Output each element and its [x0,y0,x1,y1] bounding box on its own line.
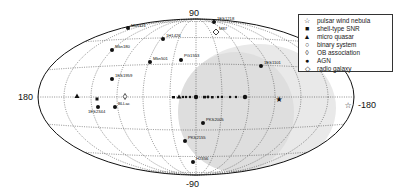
label-top: 90 [189,8,199,18]
legend-item-pwn: ☆ pulsar wind nebula [302,17,389,25]
legend-item-agn: ● AGN [302,57,389,65]
ob-association-marker [123,94,127,100]
legend-item-snr: ■ shell-type SNR [302,25,389,33]
svg-text:PKS2155: PKS2155 [188,135,206,140]
legend-item-binary: ○ binary system [302,41,389,49]
shell-snr-marker [96,98,99,101]
legend-item-radio-galaxy: ◇ radio galaxy [302,65,389,73]
square-icon: ■ [302,25,312,33]
label-right: -180 [358,100,376,110]
svg-text:☆: ☆ [345,101,352,110]
svg-text:1ES2344: 1ES2344 [88,109,106,114]
micro-quasar-marker [75,94,80,99]
svg-text:H2356: H2356 [196,156,209,161]
star-icon: ☆ [302,17,312,25]
legend-item-ob: ◊ OB association [302,49,389,57]
label-left: 180 [18,92,33,102]
svg-text:1ES1959: 1ES1959 [115,73,133,78]
svg-text:1ES1218: 1ES1218 [217,16,235,21]
open-circle-icon: ○ [302,41,312,49]
diamond-icon: ◊ [302,49,312,57]
label-bottom: -90 [186,179,199,189]
svg-text:PG1553: PG1553 [184,53,200,58]
svg-text:1H1426: 1H1426 [166,33,181,38]
filled-circle-icon: ● [302,57,312,65]
svg-text:Mkn501: Mkn501 [153,56,169,61]
svg-text:PKS2005: PKS2005 [206,117,224,122]
svg-text:★: ★ [276,95,283,104]
legend-item-microquasar: ▲ micro quasar [302,33,389,41]
svg-text:1ES1101: 1ES1101 [264,60,282,65]
svg-text:Mkn421: Mkn421 [131,23,147,28]
open-diamond-icon: ◇ [302,65,312,73]
svg-text:BLLac: BLLac [118,101,130,106]
svg-text:M87: M87 [219,26,228,31]
svg-text:Mkn180: Mkn180 [115,44,131,49]
legend: ☆ pulsar wind nebula ■ shell-type SNR ▲ … [298,14,393,72]
triangle-icon: ▲ [302,33,312,41]
